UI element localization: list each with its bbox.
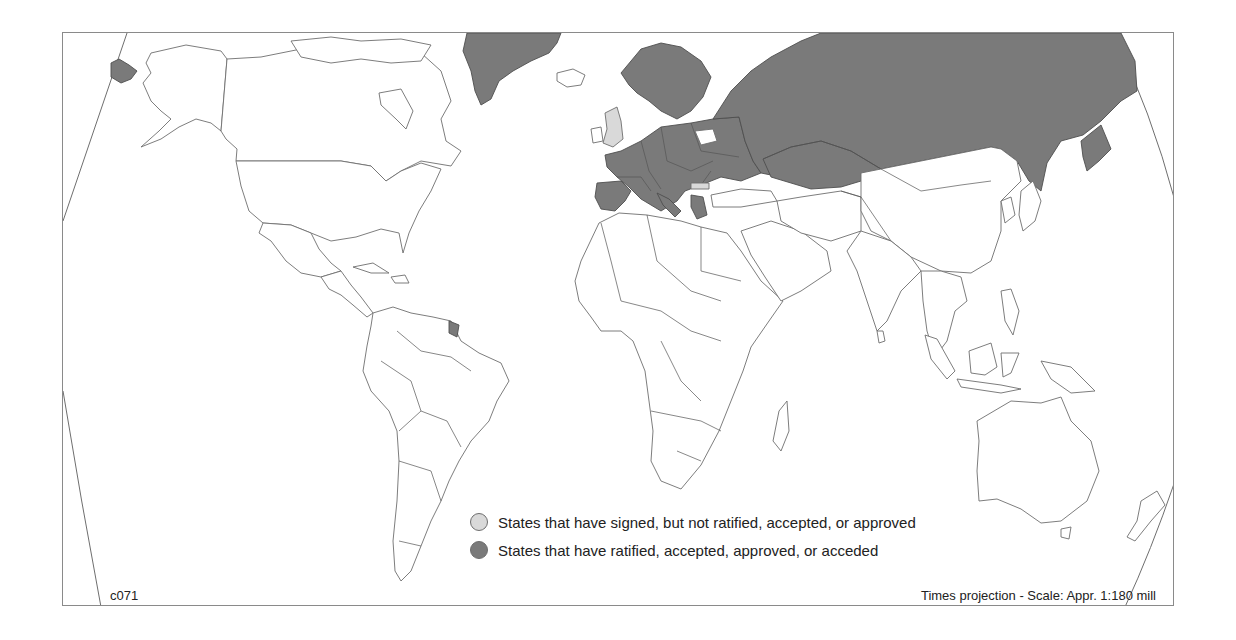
sulawesi [1001, 353, 1019, 377]
java [957, 379, 1021, 393]
left-bottom-meridian [63, 391, 101, 606]
philippines [1001, 289, 1019, 335]
canadian-arctic [291, 37, 431, 63]
australia [977, 397, 1099, 523]
greece-albania [691, 195, 707, 219]
madagascar [773, 401, 789, 451]
legend-item-signed: States that have signed, but not ratifie… [470, 508, 916, 536]
korea [1001, 197, 1015, 223]
new-guinea [1041, 361, 1095, 393]
turkey [711, 189, 777, 207]
usa [236, 161, 441, 253]
cuba [353, 263, 389, 273]
scandinavia [621, 43, 711, 119]
ireland [591, 127, 603, 143]
tasmania [1061, 527, 1071, 539]
sri-lanka [877, 331, 885, 343]
legend-label-ratified: States that have ratified, accepted, app… [498, 542, 878, 559]
legend-item-ratified: States that have ratified, accepted, app… [470, 536, 916, 564]
signed-swatch-icon [470, 513, 488, 531]
projection-scale-note: Times projection - Scale: Appr. 1:180 mi… [921, 588, 1156, 603]
hispaniola [391, 275, 409, 283]
map-legend: States that have signed, but not ratifie… [470, 508, 916, 564]
alaska [141, 45, 227, 147]
map-code: c071 [110, 588, 138, 603]
legend-label-signed: States that have signed, but not ratifie… [498, 514, 916, 531]
united-kingdom [603, 107, 623, 147]
borneo [969, 343, 997, 375]
greenland [463, 33, 561, 105]
iberia [595, 181, 631, 211]
ratified-swatch-icon [470, 541, 488, 559]
iceland [557, 69, 585, 87]
bulgaria [691, 183, 709, 189]
new-zealand [1127, 491, 1165, 541]
central-america [321, 271, 373, 317]
chukotka-west [111, 59, 137, 83]
